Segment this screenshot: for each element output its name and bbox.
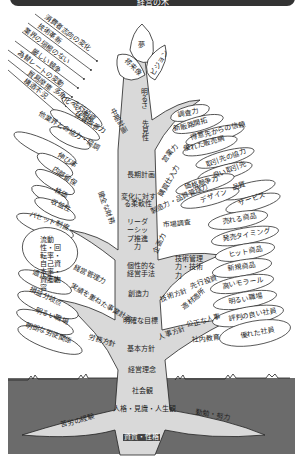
trunk-label: 資質・性格: [123, 434, 160, 441]
trunk-label: 先見性: [141, 120, 148, 141]
trunk-label: 明るさ: [140, 88, 147, 109]
trunk-label: 創造力: [128, 291, 149, 298]
trunk-label: 人格・見識・人生観: [113, 406, 176, 413]
trunk-label: 基本方針: [127, 346, 155, 353]
trunk-label: 社会観: [132, 388, 153, 395]
leaf-label: 流動性・回転率・自己資本率・資産内容: [40, 236, 62, 292]
trunk-label: 変化に対する柔軟性: [118, 194, 158, 208]
trunk-label: 個性的な経営手法: [127, 262, 155, 279]
trunk-label: リーダーシップ推進力: [124, 218, 150, 252]
trunk-label: 経営理念: [128, 367, 156, 374]
trunk-label: 長期計画: [127, 172, 155, 179]
crown-top: 夢: [138, 42, 145, 49]
